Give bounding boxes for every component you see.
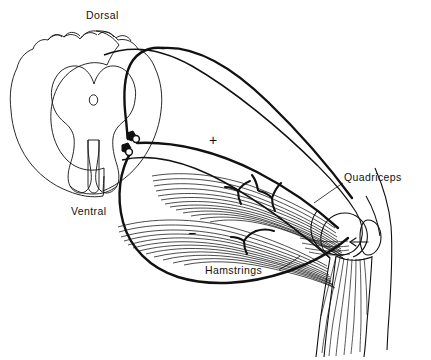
sensory-afferent-fiber <box>124 48 163 139</box>
leg-outline <box>104 49 330 258</box>
thigh-upper-contour <box>104 49 318 166</box>
figure-canvas: Dorsal Ventral Quadriceps Hamstrings + − <box>0 0 431 360</box>
synaptic-vesicle-upper <box>133 136 140 143</box>
femur-outer-shaft-2 <box>366 196 380 236</box>
synaptic-vesicle-lower <box>126 149 133 156</box>
branch-hamstrings-stem <box>256 230 274 232</box>
branch-quadriceps-lower <box>252 175 258 190</box>
sign-inhibitory: − <box>188 226 196 240</box>
leader-quadriceps <box>314 183 343 203</box>
label-dorsal: Dorsal <box>86 10 119 21</box>
sign-excitatory: + <box>209 133 217 147</box>
spinal-cord-cross-section <box>10 31 162 197</box>
femur-outer-shaft <box>375 168 392 350</box>
cord-outline <box>10 31 119 197</box>
label-quadriceps: Quadriceps <box>344 172 402 183</box>
label-hamstrings: Hamstrings <box>205 265 262 276</box>
ventral-median-fissure <box>88 140 99 193</box>
hamstrings-muscle-belly <box>118 220 335 288</box>
thigh-lower-contour <box>122 158 330 258</box>
afferent-arc-to-quadriceps <box>163 48 352 198</box>
label-ventral: Ventral <box>71 206 107 217</box>
central-canal <box>89 95 97 105</box>
knee-joint <box>311 166 392 357</box>
